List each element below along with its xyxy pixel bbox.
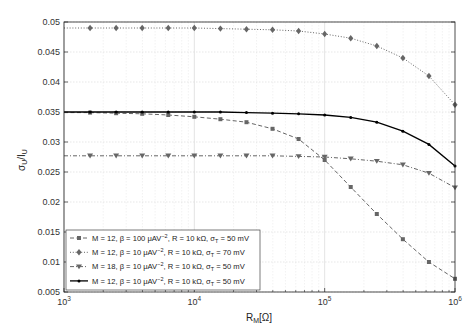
svg-text:M = 12, β = 10 μAV−2, R = 10 k: M = 12, β = 10 μAV−2, R = 10 kΩ, σT = 70… [92, 247, 246, 258]
svg-text:M = 12, β = 100 μAV−2, R = 10: M = 12, β = 100 μAV−2, R = 10 kΩ, σT = 5… [92, 233, 250, 244]
legend: M = 12, β = 100 μAV−2, R = 10 kΩ, σT = 5… [66, 230, 260, 290]
x-axis-label: RM[Ω] [246, 312, 272, 324]
series-2 [64, 25, 458, 108]
x-tick-label: 103 [57, 295, 71, 307]
y-tick-label: 0.05 [42, 17, 60, 27]
x-tick-label: 106 [448, 295, 462, 307]
y-tick-label: 0.045 [37, 47, 60, 57]
y-axis-label: σU/IU [16, 149, 28, 171]
y-tick-label: 0.03 [42, 137, 60, 147]
series-3 [64, 154, 458, 191]
y-tick-label: 0.025 [37, 167, 60, 177]
x-tick-label: 105 [318, 295, 332, 307]
y-tick-label: 0.04 [42, 77, 60, 87]
y-tick-label: 0.02 [42, 197, 60, 207]
y-tick-label: 0.015 [37, 227, 60, 237]
y-tick-label: 0.01 [42, 257, 60, 267]
y-tick-label: 0.005 [37, 287, 60, 297]
svg-text:M = 18, β = 10 μAV−2, R = 10 k: M = 18, β = 10 μAV−2, R = 10 kΩ, σT = 50… [92, 261, 246, 272]
y-tick-label: 0.035 [37, 107, 60, 117]
svg-text:M = 12, β = 10 μAV−2, R = 10 k: M = 12, β = 10 μAV−2, R = 10 kΩ, σT = 50… [92, 276, 246, 287]
legend-item: M = 12, β = 100 μAV−2, R = 10 kΩ, σT = 5… [70, 233, 250, 244]
series-4 [64, 111, 457, 168]
line-chart: 0.0050.010.0150.020.0250.030.0350.040.04… [0, 0, 472, 333]
x-tick-label: 104 [188, 295, 202, 307]
